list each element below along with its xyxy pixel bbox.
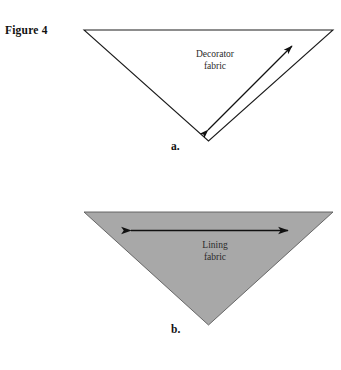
triangle-filled-icon — [84, 212, 333, 325]
triangle-outline-icon — [84, 30, 333, 141]
lining-fabric-label: Lining fabric — [180, 240, 250, 263]
lining-fabric-line2: fabric — [180, 252, 250, 264]
figure-page: Figure 4 — [0, 0, 341, 370]
figure-illustration — [0, 0, 341, 370]
panel-a-caption: a. — [171, 140, 180, 152]
decorator-fabric-line1: Decorator — [175, 49, 255, 61]
decorator-fabric-line2: fabric — [175, 61, 255, 73]
lining-fabric-line1: Lining — [180, 240, 250, 252]
decorator-fabric-label: Decorator fabric — [175, 49, 255, 72]
panel-b-caption: b. — [171, 323, 180, 335]
